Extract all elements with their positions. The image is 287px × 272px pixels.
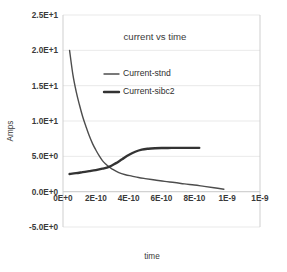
y-axis-tick-label: 2.0E+1: [32, 46, 59, 55]
x-axis-tick-label: 1E-9: [251, 194, 269, 203]
series-line-2: [70, 148, 200, 174]
chart-title: current vs time: [124, 31, 187, 42]
legend-label-2: Current-sibc2: [123, 86, 175, 96]
x-axis-tick-label: 8E-10: [183, 194, 205, 203]
y-axis-tick-label: 5.0E+0: [32, 152, 59, 161]
x-axis-tick-label: 4E-10: [118, 194, 140, 203]
x-axis-tick-label: 1E-9: [219, 194, 237, 203]
chart-canvas: 2.5E+12.0E+11.5E+11.0E+15.0E+00.0E+0-5.0…: [0, 0, 287, 272]
x-axis-tick-label: 2E-10: [85, 194, 107, 203]
y-axis-tick-label: 1.0E+1: [32, 117, 59, 126]
y-axis-tick-label: 2.5E+1: [32, 11, 59, 20]
y-axis-tick-label: 1.5E+1: [32, 82, 59, 91]
x-axis-tick-label: 0E+0: [53, 194, 73, 203]
legend-label-1: Current-stnd: [123, 68, 171, 78]
x-axis-tick-label: 6E-10: [151, 194, 173, 203]
x-axis-title: time: [144, 252, 160, 261]
x-axis-tick-labels: 0E+02E-104E-106E-108E-101E-91E-9: [53, 194, 269, 203]
chart-container: 2.5E+12.0E+11.5E+11.0E+15.0E+00.0E+0-5.0…: [0, 0, 287, 272]
y-axis-title: Amps: [6, 121, 15, 142]
chart-legend: Current-stndCurrent-sibc2: [104, 68, 175, 96]
y-axis-tick-label: -5.0E+0: [29, 223, 58, 232]
